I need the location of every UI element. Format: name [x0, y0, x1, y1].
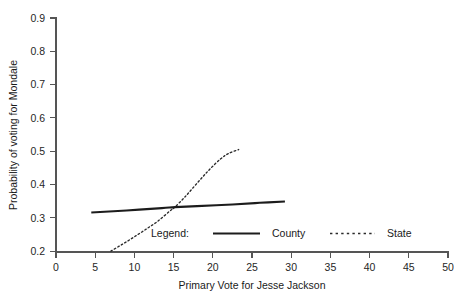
x-tick-label: 50: [442, 261, 454, 273]
x-tick-label: 15: [168, 261, 180, 273]
y-axis-title: Probability of voting for Mondale: [7, 60, 19, 210]
line-chart: 0.9 0.8 0.7 0.6 0.5 0.4 0.3 0.2 0 5 10: [0, 0, 454, 296]
y-tick-label: 0.5: [30, 145, 45, 157]
chart-legend: Legend: County State: [151, 227, 412, 239]
y-tick-label: 0.6: [30, 112, 45, 124]
x-axis-ticks: 0 5 10 15 20 25 30 35 40 45 50: [53, 252, 454, 273]
x-tick-label: 20: [207, 261, 219, 273]
x-tick-label: 0: [53, 261, 59, 273]
y-tick-label: 0.2: [30, 245, 45, 257]
y-axis-ticks: 0.9 0.8 0.7 0.6 0.5 0.4 0.3 0.2: [30, 12, 56, 257]
x-tick-label: 45: [403, 261, 415, 273]
y-tick-label: 0.3: [30, 212, 45, 224]
x-tick-label: 40: [364, 261, 376, 273]
x-axis-title: Primary Vote for Jesse Jackson: [178, 279, 325, 291]
x-tick-label: 25: [246, 261, 258, 273]
series-line-county: [91, 201, 285, 212]
x-tick-label: 10: [129, 261, 141, 273]
legend-label-state: State: [387, 227, 412, 239]
y-tick-label: 0.4: [30, 178, 45, 190]
legend-title: Legend:: [151, 227, 189, 239]
y-tick-label: 0.8: [30, 45, 45, 57]
x-tick-label: 35: [325, 261, 337, 273]
x-tick-label: 30: [285, 261, 297, 273]
legend-label-county: County: [272, 227, 306, 239]
chart-container: 0.9 0.8 0.7 0.6 0.5 0.4 0.3 0.2 0 5 10: [0, 0, 454, 296]
x-tick-label: 5: [92, 261, 98, 273]
y-tick-label: 0.9: [30, 12, 45, 24]
y-tick-label: 0.7: [30, 78, 45, 90]
